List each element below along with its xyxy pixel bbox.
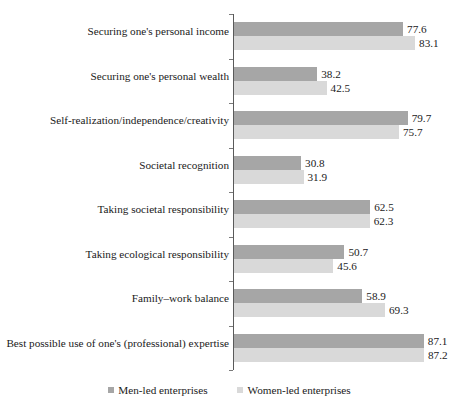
bar-women	[234, 348, 424, 362]
category-label: Securing one's personal income	[4, 25, 229, 38]
bar-women	[234, 214, 370, 228]
category-label: Societal recognition	[4, 159, 229, 172]
category-label: Taking societal responsibility	[4, 203, 229, 216]
bar-men	[234, 245, 344, 259]
category-group: Securing one's personal income77.683.1	[0, 14, 459, 59]
bar-women	[234, 259, 333, 273]
bar-value-label-men: 58.9	[366, 289, 386, 303]
category-group: Securing one's personal wealth38.242.5	[0, 59, 459, 104]
bar-value-label-women: 31.9	[308, 170, 328, 184]
category-group: Taking societal responsibility62.562.3	[0, 192, 459, 237]
legend-label-men: Men-led enterprises	[118, 384, 207, 396]
bar-men	[234, 200, 370, 214]
bar-value-label-men: 50.7	[348, 245, 368, 259]
bar-women	[234, 170, 304, 184]
legend-swatch-icon-men	[108, 387, 114, 393]
legend-item-women-led: Women-led enterprises	[237, 384, 350, 396]
bar-value-label-women: 75.7	[403, 125, 423, 139]
category-group: Taking ecological responsibility50.745.6	[0, 237, 459, 282]
category-label: Best possible use of one's (professional…	[4, 337, 229, 350]
grouped-bar-chart: Securing one's personal income77.683.1Se…	[0, 0, 459, 412]
plot-area: Securing one's personal income77.683.1Se…	[0, 0, 459, 376]
legend-swatch-icon-women	[237, 387, 243, 393]
bar-value-label-women: 62.3	[374, 214, 394, 228]
legend-label-women: Women-led enterprises	[247, 384, 350, 396]
bar-value-label-men: 38.2	[321, 67, 341, 81]
category-label: Securing one's personal wealth	[4, 70, 229, 83]
legend-item-men-led: Men-led enterprises	[108, 384, 207, 396]
chart-legend: Men-led enterprises Women-led enterprise…	[0, 379, 459, 401]
bar-women	[234, 36, 415, 50]
bar-men	[234, 289, 362, 303]
bar-value-label-men: 30.8	[305, 156, 325, 170]
category-group: Best possible use of one's (professional…	[0, 326, 459, 371]
bar-women	[234, 81, 327, 95]
bar-value-label-men: 79.7	[412, 111, 432, 125]
bar-value-label-women: 45.6	[337, 259, 357, 273]
bar-men	[234, 111, 408, 125]
bar-value-label-women: 42.5	[331, 81, 351, 95]
category-group: Family–work balance58.969.3	[0, 281, 459, 326]
bar-men	[234, 334, 424, 348]
bar-value-label-men: 77.6	[407, 22, 427, 36]
category-group: Self-realization/independence/creativity…	[0, 103, 459, 148]
bar-value-label-women: 83.1	[419, 36, 439, 50]
bar-women	[234, 303, 385, 317]
category-group: Societal recognition30.831.9	[0, 148, 459, 193]
bar-men	[234, 67, 317, 81]
bar-women	[234, 125, 399, 139]
bar-value-label-women: 69.3	[389, 303, 409, 317]
bar-value-label-men: 87.1	[428, 334, 448, 348]
bar-value-label-men: 62.5	[374, 200, 394, 214]
bar-men	[234, 156, 301, 170]
axis-tick	[229, 370, 233, 371]
bar-value-label-women: 87.2	[428, 348, 448, 362]
category-label: Family–work balance	[4, 292, 229, 305]
category-label: Self-realization/independence/creativity	[4, 114, 229, 127]
category-label: Taking ecological responsibility	[4, 248, 229, 261]
bar-men	[234, 22, 403, 36]
